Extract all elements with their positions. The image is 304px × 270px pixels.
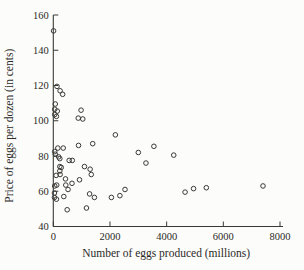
y-axis-title: Price of eggs per dozen (in cents) (3, 49, 16, 203)
x-tick-label: 8000 (270, 231, 291, 242)
data-point (70, 181, 75, 186)
data-point (66, 187, 71, 192)
y-tick-label: 80 (38, 151, 49, 162)
data-point (76, 116, 81, 121)
data-point (123, 187, 128, 192)
data-point (82, 164, 87, 169)
data-point (88, 167, 93, 172)
data-point (183, 190, 188, 195)
data-point (92, 195, 97, 200)
data-point (80, 117, 85, 122)
data-point (61, 146, 66, 151)
data-point (136, 150, 141, 155)
data-point (90, 141, 95, 146)
y-tick-label: 140 (33, 45, 49, 56)
data-point (84, 206, 89, 211)
data-point (87, 192, 92, 197)
data-point (63, 177, 68, 182)
data-point (144, 161, 149, 166)
data-point (60, 92, 65, 97)
x-tick-label: 2000 (99, 231, 120, 242)
x-tick-label: 0 (51, 231, 56, 242)
y-tick-label: 160 (33, 10, 49, 21)
y-tick-label: 100 (33, 115, 49, 126)
data-point (191, 186, 196, 191)
data-point (118, 193, 123, 198)
data-point (261, 184, 266, 189)
data-point (76, 143, 81, 148)
data-point (89, 172, 94, 177)
y-tick-label: 60 (38, 186, 49, 197)
data-point (152, 144, 157, 149)
data-point (109, 195, 114, 200)
scatter-plot-canvas: 40608010012014016002000400060008000Numbe… (0, 0, 304, 270)
data-point (113, 133, 118, 138)
data-point (70, 158, 75, 163)
data-point (79, 108, 84, 113)
y-tick-label: 40 (38, 221, 49, 232)
scatter-plot-figure: 40608010012014016002000400060008000Numbe… (0, 0, 304, 270)
y-tick-label: 120 (33, 80, 49, 91)
data-point (171, 153, 176, 158)
data-point (61, 194, 66, 199)
x-tick-label: 6000 (213, 231, 234, 242)
x-tick-label: 4000 (156, 231, 177, 242)
data-point (65, 207, 70, 212)
data-point (77, 177, 82, 182)
x-axis-title: Number of eggs produced (millions) (82, 247, 250, 260)
data-point (63, 183, 68, 188)
data-point (55, 84, 60, 89)
data-point (204, 185, 209, 190)
